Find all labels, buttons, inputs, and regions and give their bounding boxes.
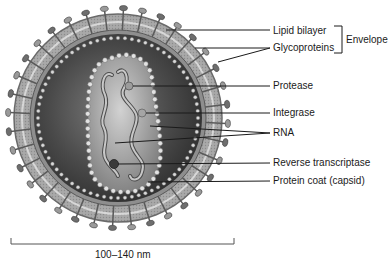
envelope-bracket (334, 26, 342, 53)
label-envelope: Envelope (346, 34, 388, 46)
label-glycoproteins: Glycoproteins (273, 42, 334, 54)
scale-bar-label: 100–140 nm (95, 249, 151, 260)
virion-illustration (0, 0, 391, 263)
protease-particle (125, 82, 133, 90)
reverse-transcriptase-particle (110, 160, 119, 169)
hiv-virion-diagram: Lipid bilayer Glycoproteins Protease Int… (0, 0, 391, 263)
label-protease: Protease (273, 80, 313, 92)
label-protein-coat: Protein coat (capsid) (273, 175, 365, 187)
label-rna: RNA (273, 127, 294, 139)
label-reverse-transcriptase: Reverse transcriptase (273, 157, 370, 169)
integrase-particle (138, 109, 146, 117)
scale-bar (11, 238, 234, 244)
label-lipid-bilayer: Lipid bilayer (273, 25, 326, 37)
label-integrase: Integrase (273, 107, 315, 119)
